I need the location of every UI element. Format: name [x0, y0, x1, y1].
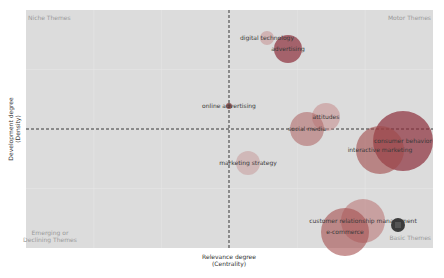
bubble-label: advertising — [271, 45, 305, 53]
bubble-label: marketing strategy — [219, 159, 277, 167]
bubble-label: attitudes — [313, 113, 340, 120]
quadrant-label-niche: Niche Themes — [28, 14, 71, 21]
bubble-label: social media — [288, 125, 326, 132]
thematic-map-chart: digital technologyadvertisingonline adve… — [0, 0, 444, 278]
bubble-label: customer relationship management — [309, 217, 417, 225]
bubble-label: consumer behavior — [374, 137, 432, 144]
quadrant-label-declining: Declining Themes — [23, 236, 77, 244]
bubble-label: interactive marketing — [348, 146, 413, 154]
bubble-label: e-commerce — [326, 228, 364, 235]
quadrant-label-motor: Motor Themes — [388, 14, 431, 21]
bubble-label: digital technology — [240, 34, 294, 42]
cluster-icon — [395, 222, 401, 228]
x-axis-title-line2: (Centrality) — [212, 260, 246, 268]
y-axis-title-line2: (Density) — [14, 115, 22, 143]
quadrant-label-basic: Basic Themes — [389, 234, 431, 241]
bubble-label: online advertising — [202, 102, 256, 110]
